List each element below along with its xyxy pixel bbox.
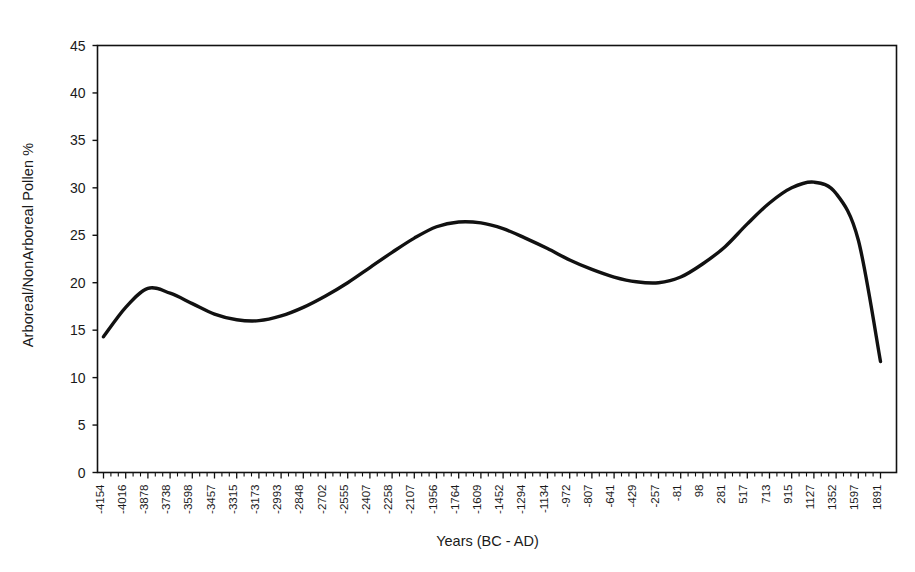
x-tick-label: -2407 bbox=[360, 485, 372, 514]
x-tick-label: -3598 bbox=[182, 485, 194, 514]
x-tick-label: -3173 bbox=[249, 485, 261, 514]
y-tick-label: 10 bbox=[70, 370, 86, 386]
x-tick-label: 915 bbox=[782, 485, 794, 504]
x-tick-label: -807 bbox=[582, 485, 594, 508]
plot-frame-border bbox=[98, 46, 897, 473]
x-tick-label: -2993 bbox=[271, 485, 283, 514]
x-tick-label: -1609 bbox=[471, 485, 483, 514]
x-tick-label: -2258 bbox=[382, 485, 394, 514]
x-tick-label: -429 bbox=[626, 485, 638, 508]
x-tick-label: -1764 bbox=[449, 484, 461, 514]
pollen-curve-line bbox=[104, 182, 881, 362]
y-tick-label: 20 bbox=[70, 275, 86, 291]
x-tick-label-group: -4154-4016-3878-3738-3598-3457-3315-3173… bbox=[94, 484, 883, 514]
x-tick-label: -1452 bbox=[493, 484, 505, 513]
chart-plot-area: 051015202530354045 -4154-4016-3878-3738-… bbox=[0, 0, 915, 572]
x-tick-label: -3738 bbox=[160, 485, 172, 514]
x-tick-label: -2702 bbox=[316, 485, 328, 514]
x-tick-label: -1134 bbox=[538, 484, 550, 513]
x-tick-label: 98 bbox=[693, 485, 705, 498]
y-tick-label: 40 bbox=[70, 85, 86, 101]
y-tick-label: 0 bbox=[78, 465, 86, 481]
y-tick-label-group: 051015202530354045 bbox=[70, 38, 86, 481]
x-tick-label: -972 bbox=[560, 485, 572, 508]
x-tick-label: 1127 bbox=[804, 485, 816, 510]
x-tick-label: -1294 bbox=[515, 484, 527, 514]
x-tick-mark-group bbox=[104, 473, 881, 479]
y-tick-label: 5 bbox=[78, 417, 86, 433]
x-tick-label: 517 bbox=[737, 485, 749, 504]
x-tick-label: -2848 bbox=[293, 485, 305, 514]
y-tick-label: 25 bbox=[70, 227, 86, 243]
x-tick-label: -4016 bbox=[116, 485, 128, 514]
pollen-diagram-figure: Arboreal/NonArboreal Pollen % 0510152025… bbox=[0, 0, 915, 572]
x-tick-label: 1891 bbox=[871, 485, 883, 511]
y-tick-label: 45 bbox=[70, 38, 86, 54]
y-tick-label: 30 bbox=[70, 180, 86, 196]
x-tick-label: -3315 bbox=[227, 485, 239, 514]
y-tick-label: 35 bbox=[70, 132, 86, 148]
x-tick-label: -3878 bbox=[138, 485, 150, 514]
x-tick-label: -3457 bbox=[205, 485, 217, 514]
x-tick-label: -81 bbox=[671, 485, 683, 502]
x-tick-label: -2555 bbox=[338, 485, 350, 514]
x-tick-label: -4154 bbox=[94, 484, 106, 514]
x-tick-label: -257 bbox=[649, 485, 661, 508]
x-tick-label: 1352 bbox=[826, 485, 838, 511]
x-tick-label: 713 bbox=[760, 485, 772, 504]
x-tick-label: -2107 bbox=[404, 485, 416, 514]
x-axis-title-text: Years (BC - AD) bbox=[376, 533, 539, 549]
x-tick-label: -641 bbox=[604, 485, 616, 508]
x-tick-label: 1597 bbox=[848, 485, 860, 511]
x-tick-label: 281 bbox=[715, 485, 727, 504]
x-axis-title: Years (BC - AD) bbox=[0, 533, 915, 549]
x-tick-label: -1956 bbox=[427, 485, 439, 514]
y-tick-label: 15 bbox=[70, 322, 86, 338]
